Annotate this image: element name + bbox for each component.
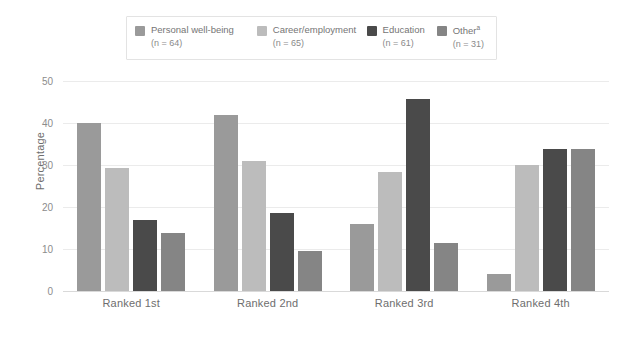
bar[interactable] xyxy=(406,99,430,291)
bar-group: Ranked 2nd xyxy=(200,81,337,291)
bar[interactable] xyxy=(378,172,402,291)
bar[interactable] xyxy=(242,161,266,291)
bar[interactable] xyxy=(298,251,322,291)
legend-label-education: Education xyxy=(383,24,425,37)
bar-group: Ranked 1st xyxy=(63,81,200,291)
bar-group-bars xyxy=(473,81,610,291)
x-tick-label: Ranked 1st xyxy=(63,297,200,309)
legend-swatch-education xyxy=(367,26,377,36)
bar[interactable] xyxy=(350,224,374,291)
bar[interactable] xyxy=(133,220,157,291)
bar[interactable] xyxy=(105,168,129,291)
bar[interactable] xyxy=(515,165,539,291)
legend-item-other: Othera (n = 31) xyxy=(437,24,492,50)
legend-item-personal-well-being: Personal well-being (n = 64) xyxy=(135,24,257,49)
legend-label-personal-well-being: Personal well-being xyxy=(151,24,234,37)
bar[interactable] xyxy=(214,115,238,291)
bar[interactable] xyxy=(487,274,511,291)
bar[interactable] xyxy=(434,243,458,291)
plot-area: 01020304050 Ranked 1stRanked 2ndRanked 3… xyxy=(63,81,609,291)
bar-groups: Ranked 1stRanked 2ndRanked 3rdRanked 4th xyxy=(63,81,609,291)
x-tick-label: Ranked 4th xyxy=(473,297,610,309)
legend-n-education: (n = 61) xyxy=(383,37,425,49)
legend-n-personal-well-being: (n = 64) xyxy=(151,37,234,49)
bar-chart: Personal well-being (n = 64) Career/empl… xyxy=(0,0,621,343)
bar[interactable] xyxy=(77,123,101,291)
y-tick-label-10: 10 xyxy=(21,244,53,255)
legend-item-career-employment: Career/employment (n = 65) xyxy=(257,24,367,49)
bar-group: Ranked 3rd xyxy=(336,81,473,291)
y-tick-label-30: 30 xyxy=(21,160,53,171)
y-tick-label-20: 20 xyxy=(21,202,53,213)
y-tick-label-40: 40 xyxy=(21,118,53,129)
bar-group: Ranked 4th xyxy=(473,81,610,291)
x-tick-label: Ranked 2nd xyxy=(200,297,337,309)
legend-label-career-employment: Career/employment xyxy=(273,24,356,37)
legend-swatch-other xyxy=(437,26,447,36)
legend-label-other-superscript: a xyxy=(476,24,480,31)
chart-legend: Personal well-being (n = 64) Career/empl… xyxy=(126,16,497,60)
legend-label-other-text: Other xyxy=(453,25,477,36)
bar[interactable] xyxy=(571,149,595,291)
bar[interactable] xyxy=(543,149,567,291)
gridline-0 xyxy=(63,291,609,292)
bar-group-bars xyxy=(63,81,200,291)
bar[interactable] xyxy=(161,233,185,291)
legend-label-other: Othera xyxy=(453,24,484,38)
y-tick-label-0: 0 xyxy=(21,286,53,297)
legend-item-education: Education (n = 61) xyxy=(367,24,437,49)
legend-swatch-career-employment xyxy=(257,26,267,36)
bar-group-bars xyxy=(200,81,337,291)
y-tick-label-50: 50 xyxy=(21,76,53,87)
legend-swatch-personal-well-being xyxy=(135,26,145,36)
legend-n-career-employment: (n = 65) xyxy=(273,37,356,49)
x-tick-label: Ranked 3rd xyxy=(336,297,473,309)
bar[interactable] xyxy=(270,213,294,291)
bar-group-bars xyxy=(336,81,473,291)
legend-n-other: (n = 31) xyxy=(453,38,484,50)
